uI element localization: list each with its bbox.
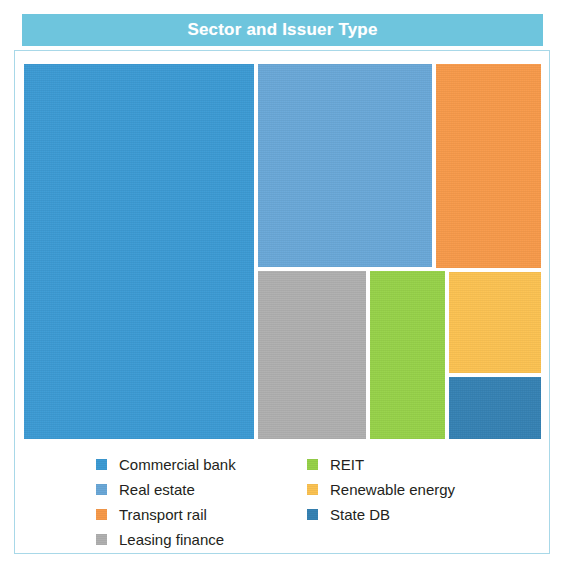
treemap-cell-real-estate[interactable] <box>256 62 434 269</box>
legend-item-state-db[interactable]: State DB <box>307 502 455 527</box>
legend-item-commercial-bank[interactable]: Commercial bank <box>96 452 236 477</box>
legend-item-reit[interactable]: REIT <box>307 452 455 477</box>
treemap-figure: Sector and Issuer Type Commercial bankRe… <box>0 0 563 568</box>
treemap-cell-commercial-bank[interactable] <box>22 62 256 441</box>
treemap-plot-area <box>22 62 543 441</box>
legend-swatch-icon <box>307 484 318 495</box>
treemap-cell-reit[interactable] <box>368 269 447 441</box>
legend-swatch-icon <box>96 534 107 545</box>
legend-swatch-icon <box>307 459 318 470</box>
chart-legend: Commercial bankReal estateTransport rail… <box>22 452 543 548</box>
legend-item-label: Leasing finance <box>119 532 224 547</box>
page-title: Sector and Issuer Type <box>187 20 377 40</box>
chart-title-band: Sector and Issuer Type <box>22 14 543 46</box>
legend-swatch-icon <box>96 484 107 495</box>
legend-item-label: Commercial bank <box>119 457 236 472</box>
legend-item-label: State DB <box>330 507 390 522</box>
legend-item-transport-rail[interactable]: Transport rail <box>96 502 236 527</box>
legend-item-label: Transport rail <box>119 507 207 522</box>
legend-swatch-icon <box>307 509 318 520</box>
legend-item-label: REIT <box>330 457 364 472</box>
legend-swatch-icon <box>96 459 107 470</box>
legend-item-real-estate[interactable]: Real estate <box>96 477 236 502</box>
legend-column-right: REITRenewable energyState DB <box>307 452 455 527</box>
legend-item-label: Renewable energy <box>330 482 455 497</box>
treemap-cell-renewable-energy[interactable] <box>447 270 543 375</box>
legend-swatch-icon <box>96 509 107 520</box>
treemap-cell-state-db[interactable] <box>447 375 543 441</box>
legend-item-leasing-finance[interactable]: Leasing finance <box>96 527 236 552</box>
legend-item-label: Real estate <box>119 482 195 497</box>
treemap-cell-transport-rail[interactable] <box>434 62 543 270</box>
treemap-cell-leasing-finance[interactable] <box>256 269 368 441</box>
legend-column-left: Commercial bankReal estateTransport rail… <box>96 452 236 552</box>
legend-item-renewable-energy[interactable]: Renewable energy <box>307 477 455 502</box>
